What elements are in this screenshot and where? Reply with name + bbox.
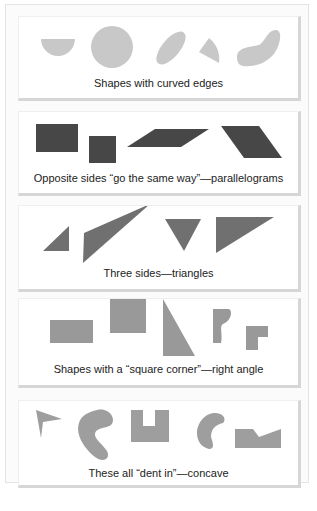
circle-shape <box>91 26 133 68</box>
square-shape <box>110 299 146 333</box>
c-crescent-shape <box>197 413 225 449</box>
panel-parallelograms: Opposite sides “go the same way”—paralle… <box>18 111 301 196</box>
ellipse-shape <box>151 27 191 69</box>
panel-concave: These all “dent in”—concave <box>18 400 301 488</box>
panel-right-angle: Shapes with a “square corner”—right angl… <box>18 298 301 388</box>
kidney-shape <box>78 410 113 460</box>
circular-sector-shape <box>199 38 219 63</box>
panel-caption: These all “dent in”—concave <box>19 467 298 479</box>
l-shape <box>246 326 268 350</box>
right-triangle-shape <box>163 299 195 356</box>
arrowhead-shape <box>36 410 62 438</box>
rectangle-shape <box>50 320 93 343</box>
long-thin-triangle-shape <box>83 206 150 263</box>
half-circle-shape <box>41 39 75 56</box>
bean-shape <box>237 30 280 66</box>
slanted-parallelogram-shape <box>127 129 209 147</box>
trapezoid-parallelogram-shape <box>221 126 282 158</box>
curvy-right-shape <box>213 309 231 343</box>
inverted-triangle-shape <box>165 219 201 251</box>
panel-triangles: Three sides—triangles <box>18 205 301 292</box>
panel-caption: Three sides—triangles <box>19 267 298 279</box>
panel-caption: Opposite sides “go the same way”—paralle… <box>19 172 298 184</box>
square-shape <box>89 136 116 163</box>
panel-caption: Shapes with curved edges <box>19 77 298 89</box>
rectangle-shape <box>36 124 78 152</box>
u-block-shape <box>131 410 169 442</box>
panel-caption: Shapes with a “square corner”—right angl… <box>19 363 298 375</box>
small-right-triangle-shape <box>43 226 69 251</box>
panel-curved-shapes: Shapes with curved edges <box>18 16 301 101</box>
wide-triangle-shape <box>216 217 274 253</box>
notched-rectangle-shape <box>235 429 281 448</box>
